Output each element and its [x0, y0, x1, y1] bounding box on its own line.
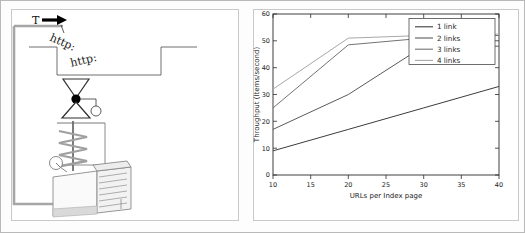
index-page-step-outline: [29, 47, 197, 75]
server-machine-side: [97, 167, 131, 213]
y-tick-label-60: 60: [262, 10, 270, 18]
x-tick-label-15: 15: [307, 181, 315, 189]
branch-wire: [63, 123, 105, 165]
figure-container: T http: http:: [0, 0, 525, 233]
x-tick-label-10: 10: [269, 181, 277, 189]
throughput-line-chart: 0 10 20 30 40 50 60: [249, 1, 525, 232]
legend-label-3-links: 3 links: [437, 45, 461, 54]
thread-label: T: [32, 14, 39, 27]
pressure-gauge-lead: [60, 167, 67, 172]
y-tick-label-20: 20: [262, 118, 270, 126]
throughput-chart-panel: 0 10 20 30 40 50 60: [249, 1, 525, 232]
diagram-graphics: [1, 1, 249, 232]
legend-label-4-links: 4 links: [437, 56, 461, 65]
x-axis-title: URLs per Index page: [350, 192, 423, 200]
schematic-diagram-panel: T http: http:: [1, 1, 249, 232]
funnel-bottom-triangle: [62, 102, 90, 118]
x-tick-label-30: 30: [420, 181, 428, 189]
y-tick-label-10: 10: [262, 145, 270, 153]
y-tick-label-30: 30: [262, 91, 270, 99]
chart-legend: 1 link 2 links 3 links 4 links: [409, 19, 495, 65]
y-tick-label-0: 0: [266, 171, 270, 179]
thread-arrow-icon: [42, 15, 67, 25]
legend-label-2-links: 2 links: [437, 34, 461, 43]
y-tick-label-40: 40: [262, 64, 270, 72]
x-tick-label-40: 40: [495, 181, 503, 189]
small-gauge-circle: [91, 106, 101, 116]
y-tick-label-50: 50: [262, 37, 270, 45]
y-axis-title: Throughput (Items/second): [253, 47, 261, 144]
x-tick-label-25: 25: [382, 181, 390, 189]
x-tick-label-35: 35: [457, 181, 465, 189]
junction-connector: [80, 99, 96, 106]
x-tick-label-20: 20: [344, 181, 352, 189]
legend-label-1-link: 1 link: [437, 22, 457, 31]
